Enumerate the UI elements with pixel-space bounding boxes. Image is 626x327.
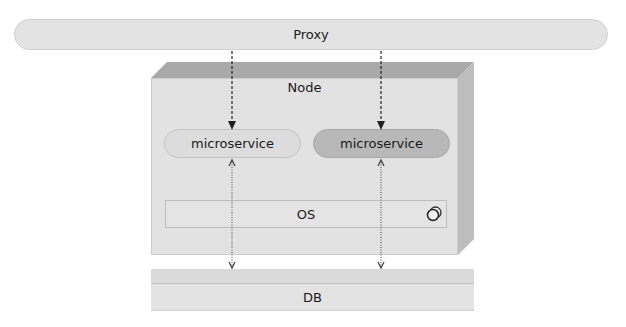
os-bar: OS [165, 200, 447, 228]
microservice-2-label: microservice [340, 136, 423, 151]
db-bar: DB [151, 284, 474, 311]
db-top-band [151, 269, 474, 284]
circles-icon [424, 205, 444, 223]
microservice-2: microservice [313, 129, 450, 158]
node-right-face [458, 62, 474, 255]
proxy-label: Proxy [293, 27, 329, 42]
microservice-1: microservice [164, 129, 301, 158]
proxy-bar: Proxy [14, 19, 608, 50]
db-label: DB [303, 290, 322, 305]
node-box [151, 78, 458, 255]
node-label: Node [151, 80, 458, 95]
node-top-face [151, 62, 474, 79]
os-label: OS [297, 207, 315, 222]
microservice-1-label: microservice [191, 136, 274, 151]
